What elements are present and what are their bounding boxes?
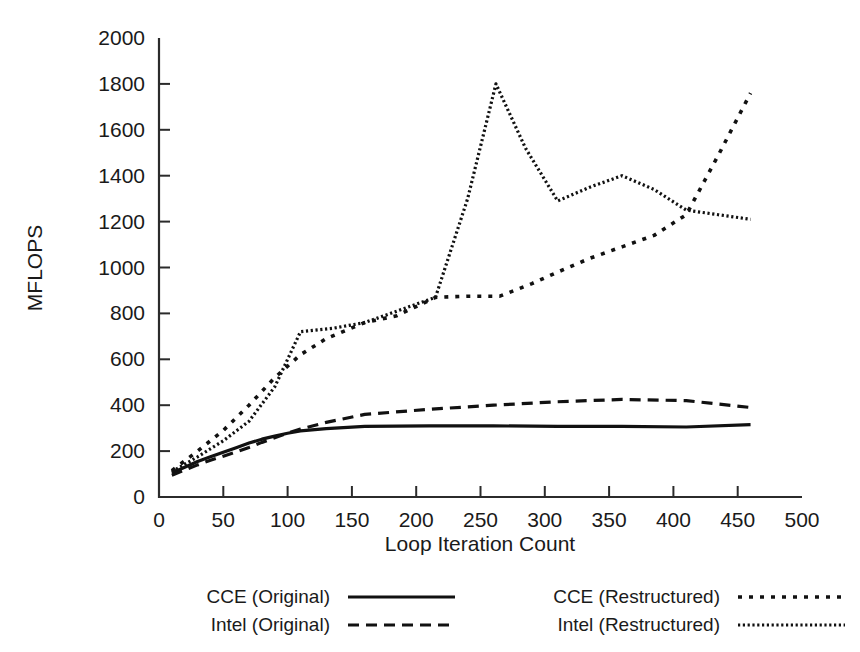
- x-tick-label: 350: [592, 508, 627, 531]
- y-tick-label: 1200: [98, 210, 145, 233]
- y-tick-label: 200: [110, 439, 145, 462]
- x-axis-ticks: 050100150200250300350400450500: [153, 486, 819, 531]
- y-tick-label: 1800: [98, 72, 145, 95]
- x-tick-label: 300: [527, 508, 562, 531]
- x-tick-label: 100: [270, 508, 305, 531]
- y-tick-label: 600: [110, 347, 145, 370]
- legend-label-2: Intel (Original): [211, 614, 330, 635]
- mflops-line-chart: 0200400600800100012001400160018002000 05…: [0, 0, 860, 652]
- x-tick-label: 250: [463, 508, 498, 531]
- x-tick-label: 450: [720, 508, 755, 531]
- legend-label-4: Intel (Restructured): [557, 614, 720, 635]
- x-tick-label: 150: [334, 508, 369, 531]
- x-tick-label: 400: [656, 508, 691, 531]
- y-tick-label: 1400: [98, 164, 145, 187]
- y-axis-title: MFLOPS: [23, 225, 46, 311]
- y-tick-label: 1600: [98, 118, 145, 141]
- axis-lines: [159, 38, 802, 497]
- y-tick-label: 800: [110, 301, 145, 324]
- x-tick-label: 200: [399, 508, 434, 531]
- series-line-4: [172, 84, 751, 472]
- x-tick-label: 50: [212, 508, 235, 531]
- y-tick-label: 1000: [98, 256, 145, 279]
- chart-legend: CCE (Original)Intel (Original)CCE (Restr…: [206, 586, 845, 635]
- y-tick-label: 2000: [98, 26, 145, 49]
- series-line-1: [172, 425, 751, 473]
- axis-frame: [159, 38, 802, 497]
- x-axis-title: Loop Iteration Count: [385, 532, 575, 555]
- data-series-group: [172, 84, 751, 475]
- legend-label-1: CCE (Original): [206, 586, 330, 607]
- chart-figure: 0200400600800100012001400160018002000 05…: [0, 0, 860, 652]
- legend-label-3: CCE (Restructured): [553, 586, 720, 607]
- y-tick-label: 400: [110, 393, 145, 416]
- y-tick-label: 0: [133, 485, 145, 508]
- series-line-3: [172, 93, 751, 471]
- x-tick-label: 0: [153, 508, 165, 531]
- x-tick-label: 500: [784, 508, 819, 531]
